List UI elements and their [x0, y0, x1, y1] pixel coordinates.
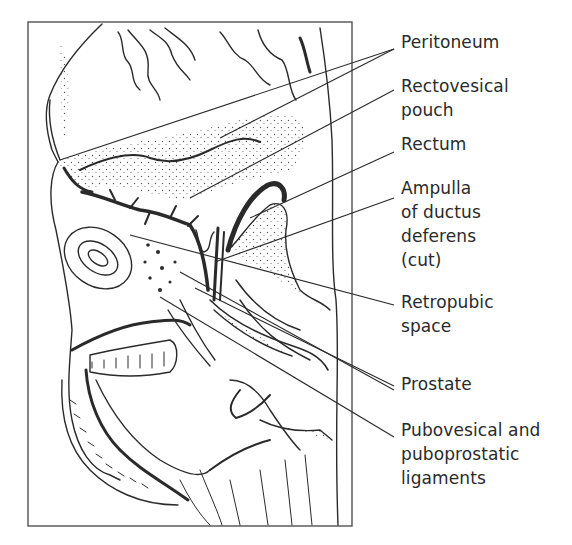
figure-frame: [28, 22, 352, 526]
anatomy-figure: Peritoneum Rectovesical pouch Rectum Amp…: [0, 0, 572, 545]
label-rectovesical-pouch: Rectovesical pouch: [401, 74, 509, 122]
label-retropubic-space: Retropubic space: [401, 290, 494, 338]
leader-ligaments: [160, 297, 394, 437]
leader-prostate-1: [180, 272, 394, 390]
leader-prostate-2: [195, 288, 394, 386]
leader-lines: [60, 49, 394, 437]
abdominal-wall-outline: [46, 24, 102, 162]
label-prostate: Prostate: [401, 372, 472, 396]
label-pubovesical-puboprostatic-ligaments: Pubovesical and puboprostatic ligaments: [401, 418, 540, 490]
label-rectum: Rectum: [401, 132, 466, 156]
leader-ampulla: [215, 198, 394, 262]
label-ampulla-of-ductus-deferens: Ampulla of ductus deferens (cut): [401, 176, 481, 272]
label-peritoneum: Peritoneum: [401, 30, 499, 54]
